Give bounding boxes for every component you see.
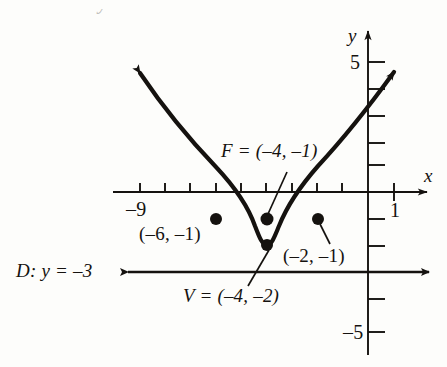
point-focus — [261, 213, 274, 226]
y-tick-label-neg5: –5 — [343, 322, 363, 342]
y-tick-label-5: 5 — [350, 52, 360, 72]
latus-left-label: (–6, –1) — [139, 224, 201, 243]
point-vertex — [261, 239, 273, 251]
latus-right-label: (–2, –1) — [283, 246, 345, 265]
focus-label: F = (–4, –1) — [221, 141, 317, 160]
point-latus-right — [312, 213, 324, 225]
y-axis-label: y — [348, 26, 357, 45]
x-axis-label: x — [424, 166, 433, 185]
x-tick-label-neg9: –9 — [126, 199, 146, 219]
point-latus-left — [210, 213, 222, 225]
crop-mask — [0, 0, 447, 9]
parabola-figure — [0, 0, 447, 367]
vertex-label: V = (–4, –2) — [183, 286, 279, 305]
x-tick-label-1: 1 — [390, 200, 400, 220]
figure-background — [0, 0, 447, 367]
directrix-label: D: y = –3 — [16, 261, 92, 280]
